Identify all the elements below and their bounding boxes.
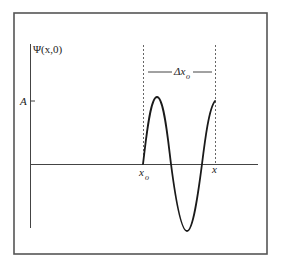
wave-diagram: Ψ(x,0) A x o x Δx o (0, 0, 282, 269)
x-label: x (211, 163, 217, 175)
y-axis-label: Ψ(x,0) (33, 43, 63, 56)
x0-label-subscript: o (145, 173, 149, 182)
amplitude-label: A (19, 95, 27, 107)
x0-label: x (138, 166, 144, 178)
delta-label: Δx (173, 65, 185, 77)
delta-label-subscript: o (186, 72, 190, 81)
